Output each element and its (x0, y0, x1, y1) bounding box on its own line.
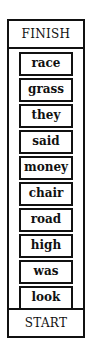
finish-label: FINISH (9, 21, 83, 49)
word-box: look (19, 286, 73, 310)
word-box: they (19, 104, 73, 128)
word-box: was (19, 260, 73, 284)
word-box: high (19, 234, 73, 258)
word-box: race (19, 52, 73, 76)
word-box: road (19, 208, 73, 232)
word-box: said (19, 130, 73, 154)
word-box: grass (19, 78, 73, 102)
word-ladder: FINISH race grass they said money chair … (7, 19, 85, 338)
word-box: money (19, 156, 73, 180)
start-label: START (9, 308, 83, 336)
word-box: chair (19, 182, 73, 206)
